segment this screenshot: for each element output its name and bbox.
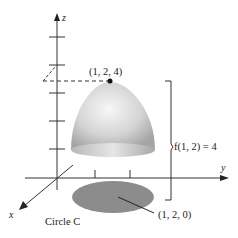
x-axis-label: x [8, 209, 14, 220]
x-axis: x [8, 165, 73, 220]
paraboloid-diagram: z y x (1, 2, 4) f(1, 2) = 4 (1, 2, 0) Ci… [0, 0, 238, 238]
region-circle-c [72, 181, 154, 213]
z-axis-label: z [61, 12, 66, 23]
y-axis-label: y [220, 162, 226, 173]
z-axis: z [49, 12, 66, 190]
height-bracket [165, 81, 173, 200]
height-label: f(1, 2) = 4 [174, 141, 217, 153]
base-point-label: (1, 2, 0) [158, 209, 192, 221]
paraboloid-surface [71, 82, 155, 157]
top-point-marker [108, 79, 113, 84]
y-axis-arrow-icon [220, 175, 229, 181]
y-axis: y [25, 162, 229, 181]
z-axis-arrow-icon [54, 13, 60, 21]
x-axis-arrow-icon [19, 201, 28, 210]
region-label: Circle C [45, 216, 80, 227]
top-point-label: (1, 2, 4) [89, 66, 123, 78]
dashed-line-diagonal [43, 66, 56, 81]
